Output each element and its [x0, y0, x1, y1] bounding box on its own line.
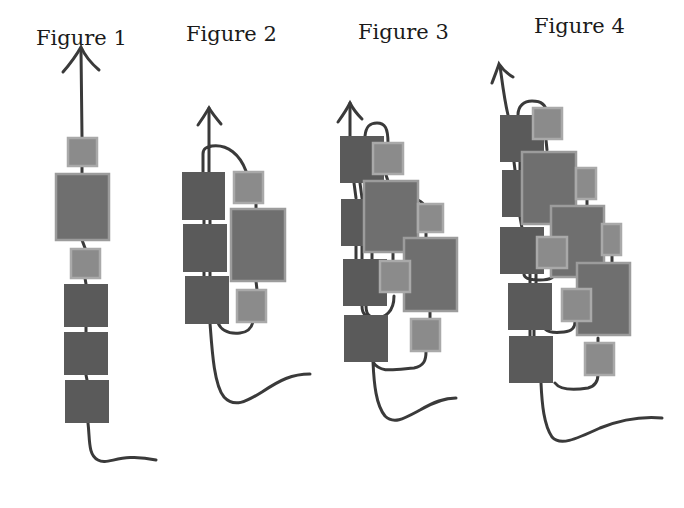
- small-domain-box: [576, 168, 596, 199]
- small-domain-box: [71, 249, 100, 278]
- small-domain-box: [533, 108, 562, 139]
- dark-square-box: [509, 336, 553, 383]
- figure-4: [492, 64, 662, 441]
- dark-square-box: [64, 332, 108, 375]
- small-domain-box: [537, 237, 567, 268]
- dark-square-box: [183, 224, 227, 272]
- small-domain-box: [380, 261, 410, 292]
- large-domain-box: [56, 174, 109, 240]
- figure-3: [338, 103, 457, 420]
- backbone-line: [203, 108, 246, 172]
- dark-square-box: [185, 276, 229, 324]
- large-domain-box: [404, 238, 457, 311]
- dark-square-box: [65, 380, 109, 423]
- dark-square-box: [344, 315, 388, 362]
- small-domain-box: [602, 224, 621, 255]
- figure-1: [56, 47, 156, 462]
- small-domain-box: [562, 289, 591, 321]
- small-domain-box: [418, 204, 443, 232]
- small-domain-box: [585, 343, 614, 375]
- dark-square-box: [508, 283, 552, 330]
- small-domain-box: [411, 319, 440, 351]
- diagram-canvas: .ln { fill:none; stroke:#3a3a3a; stroke-…: [0, 0, 684, 508]
- dark-square-box: [182, 172, 225, 220]
- small-domain-box: [68, 138, 97, 166]
- small-domain-box: [237, 290, 266, 322]
- figure-2: [182, 108, 310, 403]
- small-domain-box: [373, 143, 403, 174]
- dark-square-box: [64, 284, 108, 327]
- small-domain-box: [234, 172, 263, 203]
- large-domain-box: [231, 209, 285, 281]
